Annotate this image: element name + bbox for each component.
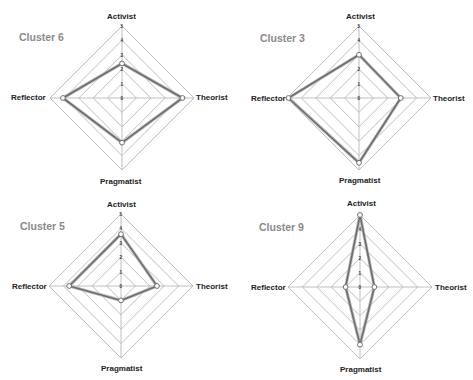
axis-label-pragmatist: Pragmatist	[339, 176, 380, 185]
series-outline	[288, 55, 400, 163]
data-point-marker	[343, 285, 348, 290]
data-point-marker	[357, 52, 362, 57]
data-point-marker	[61, 96, 66, 101]
data-point-marker	[398, 96, 403, 101]
data-point-marker	[357, 160, 362, 165]
data-point-marker	[372, 285, 377, 290]
data-point-marker	[286, 96, 291, 101]
series-line	[288, 55, 400, 163]
chart-title: Cluster 6	[19, 31, 64, 43]
axis-label-pragmatist: Pragmatist	[100, 177, 141, 186]
data-point-marker	[120, 61, 125, 66]
data-point-marker	[119, 232, 124, 237]
tick-label: 0	[121, 96, 124, 101]
series-outline	[63, 63, 183, 142]
axis-label-activist: Activist	[107, 12, 136, 21]
tick-label: 0	[120, 284, 123, 289]
chart-title: Cluster 5	[20, 220, 65, 232]
tick-label: 0	[358, 96, 361, 101]
data-point-marker	[119, 298, 124, 303]
radar-panel-cluster-5: 012345 Cluster 5 Activist Theorist Pragm…	[0, 190, 236, 380]
axis-label-reflector: Reflector	[12, 282, 47, 291]
data-point-marker	[358, 342, 363, 347]
axis-label-activist: Activist	[347, 199, 376, 208]
axis-label-pragmatist: Pragmatist	[340, 365, 381, 374]
axis-label-reflector: Reflector	[11, 93, 46, 102]
chart-title: Cluster 3	[260, 32, 305, 44]
axis-label-pragmatist: Pragmatist	[101, 364, 142, 373]
data-point-marker	[155, 284, 160, 289]
data-point-marker	[358, 213, 363, 218]
radar-panel-cluster-3: 012345 Cluster 3 Activist Theorist Pragm…	[236, 0, 472, 190]
chart-title: Cluster 9	[259, 221, 304, 233]
series-line	[63, 63, 183, 142]
axis-label-theorist: Theorist	[196, 282, 228, 291]
radar-panel-cluster-9: 012345 Cluster 9 Activist Theorist Pragm…	[236, 190, 472, 380]
axis-label-theorist: Theorist	[196, 93, 228, 102]
axis-label-reflector: Reflector	[251, 94, 286, 103]
data-point-marker	[120, 140, 125, 145]
data-point-marker	[67, 284, 72, 289]
radar-panel-cluster-6: 012345 Cluster 6 Activist Theorist Pragm…	[0, 0, 236, 190]
axis-label-theorist: Theorist	[435, 283, 467, 292]
data-point-marker	[180, 96, 185, 101]
axis-label-activist: Activist	[107, 200, 136, 209]
tick-label: 0	[359, 285, 362, 290]
axis-label-reflector: Reflector	[251, 283, 286, 292]
axis-label-activist: Activist	[346, 12, 375, 21]
axis-label-theorist: Theorist	[433, 94, 465, 103]
